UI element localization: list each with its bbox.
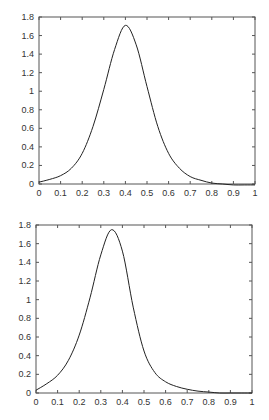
y-tick-label: 1.8 [21, 12, 34, 22]
y-tick-label: 0.6 [18, 332, 31, 342]
y-tick-label: 0.4 [21, 142, 34, 152]
y-tick-label: 1.2 [21, 68, 34, 78]
x-tick-label: 0.4 [116, 397, 129, 407]
y-tick-label: 0.8 [21, 105, 34, 115]
y-tick-label: 0 [29, 179, 34, 189]
plot-frame [36, 225, 252, 393]
x-tick-label: 1 [252, 188, 257, 198]
x-tick-label: 0.1 [54, 188, 67, 198]
x-tick-label: 0.9 [227, 188, 240, 198]
x-tick-label: 0.2 [73, 397, 86, 407]
y-tick-label: 1.6 [18, 239, 31, 249]
x-tick-label: 0.5 [141, 188, 154, 198]
x-tick-label: 0.3 [98, 188, 111, 198]
y-tick-label: 0.4 [18, 351, 31, 361]
y-tick-label: 0.6 [21, 123, 34, 133]
x-tick-label: 0.7 [181, 397, 194, 407]
x-tick-label: 0.5 [138, 397, 151, 407]
x-tick-label: 0.9 [224, 397, 237, 407]
y-tick-label: 1.4 [18, 257, 31, 267]
x-tick-label: 0.8 [206, 188, 219, 198]
y-tick-label: 1 [29, 86, 34, 96]
y-tick-label: 1 [26, 295, 31, 305]
line-chart-2: 00.10.20.30.40.50.60.70.80.9100.20.40.60… [18, 220, 254, 407]
plot-frame [39, 17, 255, 184]
y-tick-label: 0.2 [18, 369, 31, 379]
y-tick-label: 1.8 [18, 220, 31, 230]
y-tick-label: 0 [26, 388, 31, 398]
x-tick-label: 1 [249, 397, 254, 407]
y-tick-label: 0.8 [18, 313, 31, 323]
data-line [36, 230, 252, 393]
x-tick-label: 0.2 [76, 188, 89, 198]
x-tick-label: 0 [36, 188, 41, 198]
data-line [39, 25, 255, 185]
y-tick-label: 1.4 [21, 49, 34, 59]
y-tick-label: 0.2 [21, 160, 34, 170]
x-tick-label: 0.6 [162, 188, 175, 198]
x-tick-label: 0.6 [159, 397, 172, 407]
x-tick-label: 0.7 [184, 188, 197, 198]
x-tick-label: 0.3 [95, 397, 108, 407]
x-tick-label: 0.8 [203, 397, 216, 407]
y-tick-label: 1.6 [21, 31, 34, 41]
line-chart-1: 00.10.20.30.40.50.60.70.80.9100.20.40.60… [21, 12, 257, 198]
x-tick-label: 0.4 [119, 188, 132, 198]
y-tick-label: 1.2 [18, 276, 31, 286]
chart-canvas: 00.10.20.30.40.50.60.70.80.9100.20.40.60… [0, 0, 269, 420]
x-tick-label: 0 [33, 397, 38, 407]
x-tick-label: 0.1 [51, 397, 64, 407]
